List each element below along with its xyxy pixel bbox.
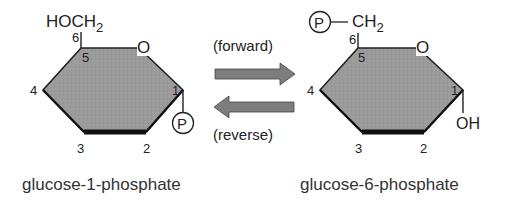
- reaction-arrows: (forward) (reverse): [213, 37, 295, 143]
- carbon-number-6: 6: [72, 30, 79, 45]
- phosphate-label: P: [314, 14, 324, 31]
- phosphate-label: P: [177, 115, 187, 132]
- ring-oxygen-label: O: [416, 38, 429, 57]
- carbon-number-1: 1: [172, 83, 179, 98]
- reverse-label: (reverse): [213, 126, 273, 143]
- glucose-1-phosphate-structure: O HOCH2 6 5 4 3 2 1 P: [30, 12, 194, 156]
- carbon-number-4: 4: [30, 83, 37, 98]
- ring-oxygen-label: O: [137, 38, 150, 57]
- carbon-number-3: 3: [355, 141, 362, 156]
- carbon-number-1: 1: [451, 83, 458, 98]
- forward-arrow-icon: [215, 63, 295, 85]
- pyranose-ring: [320, 48, 463, 132]
- carbon-number-6: 6: [349, 32, 356, 47]
- forward-label: (forward): [213, 37, 273, 54]
- reverse-arrow-icon: [214, 96, 294, 118]
- pyranose-ring: [43, 48, 183, 132]
- glucose-1-phosphate-caption: glucose-1-phosphate: [22, 175, 181, 195]
- carbon-number-2: 2: [143, 141, 150, 156]
- carbon-number-5: 5: [358, 50, 365, 65]
- carbon-number-5: 5: [82, 50, 89, 65]
- carbon-number-2: 2: [420, 141, 427, 156]
- hydroxyl-label: OH: [456, 115, 480, 132]
- c6-substituent-label: CH2: [352, 12, 384, 35]
- glucose-6-phosphate-caption: glucose-6-phosphate: [300, 175, 459, 195]
- glucose-6-phosphate-structure: O P CH2 6 5 4 3 2 1 OH: [307, 12, 480, 157]
- carbon-number-3: 3: [77, 141, 84, 156]
- carbon-number-4: 4: [307, 83, 314, 98]
